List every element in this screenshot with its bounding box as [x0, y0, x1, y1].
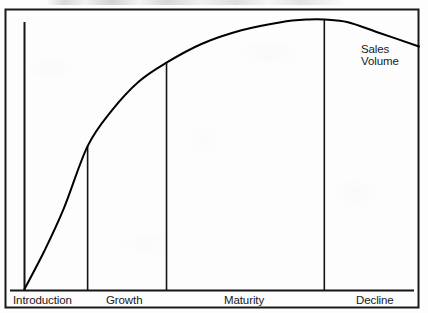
stage-label-maturity: Maturity: [224, 294, 264, 306]
stage-label-decline: Decline: [356, 294, 394, 306]
figure-border: [6, 10, 419, 308]
series-label-line-1: Sales: [361, 44, 399, 56]
series-label-line-2: Volume: [361, 56, 399, 68]
series-label-sales-volume: Sales Volume: [361, 44, 399, 67]
stage-label-introduction: Introduction: [13, 294, 72, 306]
product-life-cycle-chart: Sales Volume Introduction Growth Maturit…: [0, 0, 428, 313]
stage-label-growth: Growth: [106, 294, 142, 306]
sales-volume-curve: [25, 19, 420, 289]
